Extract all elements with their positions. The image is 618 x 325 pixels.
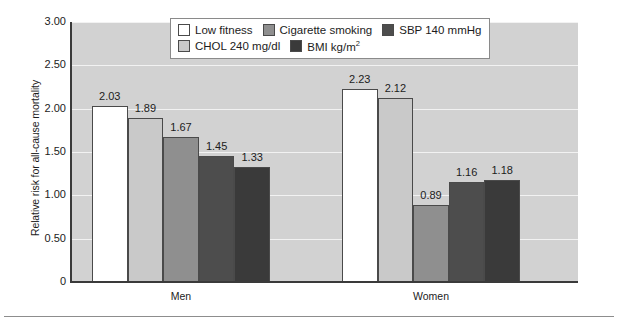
legend-label: Cigarette smoking <box>280 24 373 36</box>
bar <box>378 98 414 282</box>
y-axis-tick-label: 0.50 <box>24 232 66 244</box>
bar-value-label: 1.16 <box>449 166 485 178</box>
x-axis-category-label: Women <box>342 290 520 302</box>
legend-item: Cigarette smoking <box>263 24 373 36</box>
bar-value-label: 1.33 <box>234 151 270 163</box>
legend-swatch-icon <box>290 40 302 52</box>
bar-value-label: 1.45 <box>199 140 235 152</box>
legend-label-superscript: 2 <box>356 39 360 48</box>
legend-row: Low fitnessCigarette smokingSBP 140 mmHg <box>178 24 481 36</box>
bar-value-label: 0.89 <box>413 189 449 201</box>
bar <box>449 182 485 283</box>
y-axis-tick-label: 0 <box>24 275 66 287</box>
bar-value-label: 2.23 <box>342 73 378 85</box>
y-axis-tick-label: 1.50 <box>24 145 66 157</box>
legend-item: CHOL 240 mg/dl <box>178 40 280 52</box>
legend-row: CHOL 240 mg/dlBMI kg/m2 <box>178 39 481 53</box>
bar <box>484 180 520 282</box>
x-axis-category-label: Men <box>92 290 270 302</box>
legend-swatch-icon <box>178 24 190 36</box>
bottom-divider-rule <box>4 316 614 317</box>
y-axis-tick-label: 2.00 <box>24 102 66 114</box>
bar <box>234 167 270 282</box>
bar-value-label: 1.89 <box>128 102 164 114</box>
plot-area <box>72 22 578 282</box>
bar <box>199 156 235 282</box>
bar-value-label: 1.67 <box>163 121 199 133</box>
legend-label: BMI kg/m2 <box>307 39 360 53</box>
legend-item: Low fitness <box>178 24 253 36</box>
chart-legend: Low fitnessCigarette smokingSBP 140 mmHg… <box>170 18 490 59</box>
bar-value-label: 2.12 <box>378 82 414 94</box>
bar <box>413 205 449 282</box>
y-axis-tick-label: 2.50 <box>24 58 66 70</box>
legend-label: SBP 140 mmHg <box>399 24 481 36</box>
y-axis-line <box>70 22 72 283</box>
gridline <box>72 65 578 66</box>
y-axis-tick-label: 1.00 <box>24 188 66 200</box>
bar-chart-figure: Relative risk for all-cause mortality 3.… <box>0 0 618 325</box>
bar <box>163 137 199 282</box>
legend-label: Low fitness <box>195 24 253 36</box>
legend-swatch-icon <box>178 40 190 52</box>
bar <box>92 106 128 282</box>
y-axis-tick-label: 3.00 <box>24 15 66 27</box>
bar <box>128 118 164 282</box>
legend-swatch-icon <box>263 24 275 36</box>
legend-item: BMI kg/m2 <box>290 39 360 53</box>
bar-value-label: 1.18 <box>484 164 520 176</box>
legend-item: SBP 140 mmHg <box>382 24 481 36</box>
bar-value-label: 2.03 <box>92 90 128 102</box>
legend-swatch-icon <box>382 24 394 36</box>
x-axis-line <box>70 281 578 283</box>
bar <box>342 89 378 282</box>
legend-label: CHOL 240 mg/dl <box>195 40 280 52</box>
